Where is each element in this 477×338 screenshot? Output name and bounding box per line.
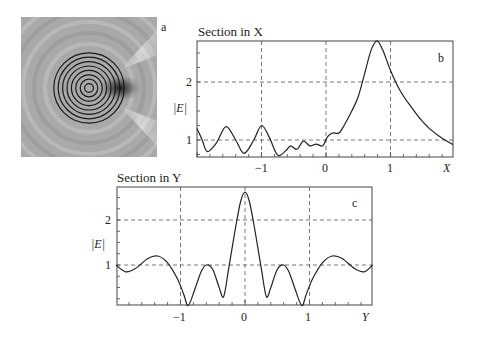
chart-c-xlabel: Y	[362, 310, 370, 324]
panel-a-label: a	[161, 20, 167, 34]
chart-c-xtick-0: 0	[241, 310, 247, 324]
chart-b-ytick-2: 2	[186, 75, 192, 89]
chart-b-xtick-0: 0	[322, 161, 328, 175]
chart-c-xtick-1: 1	[305, 310, 311, 324]
chart-c-ytick-2: 2	[105, 213, 111, 227]
chart-b-panel-label: b	[438, 51, 444, 65]
chart-c-ytick-1: 1	[105, 258, 111, 272]
chart-c-frame	[117, 187, 372, 305]
chart-c: Section in Y c |E| 2 1 −1 0 1 Y	[91, 170, 373, 324]
chart-b-xtick-1: 1	[387, 161, 393, 175]
chart-b-xlabel: X	[442, 161, 451, 175]
chart-b-curve	[197, 41, 453, 156]
chart-c-curve	[116, 192, 373, 305]
chart-c-xtick-m1: −1	[173, 310, 186, 324]
chart-b: Section in X b |E| 2 1 −1 0 1 X	[173, 24, 453, 175]
chart-b-ylabel: |E|	[173, 101, 187, 115]
figure: a Section in X b |E| 2 1 −1 0 1 X Sectio…	[0, 0, 477, 338]
chart-c-grid	[117, 187, 372, 305]
chart-b-ticks	[197, 53, 442, 157]
chart-b-title: Section in X	[198, 24, 264, 39]
chart-c-ylabel: |E|	[91, 237, 105, 251]
chart-c-ticks	[117, 198, 361, 306]
chart-c-panel-label: c	[352, 196, 357, 210]
chart-b-xtick-m1: −1	[255, 161, 268, 175]
chart-c-title: Section in Y	[117, 170, 182, 185]
chart-b-ytick-1: 1	[186, 133, 192, 147]
